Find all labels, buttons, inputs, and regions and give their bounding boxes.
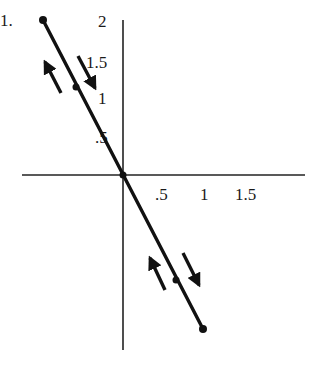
lower-left-arrow-icon xyxy=(150,258,165,290)
bottom-endpoint-dot xyxy=(199,325,207,333)
y-tick-2: 2 xyxy=(98,12,107,31)
x-tick-1-5: 1.5 xyxy=(235,185,256,204)
origin-dot xyxy=(120,172,127,179)
figure-label: 1. xyxy=(0,11,13,30)
upper-left-arrow-icon xyxy=(45,62,61,93)
upper-point-dot xyxy=(73,84,80,91)
top-endpoint-dot xyxy=(39,16,47,24)
y-tick-1-5: 1.5 xyxy=(86,53,107,72)
lower-point-dot xyxy=(173,277,180,284)
x-tick-0-5: .5 xyxy=(155,185,168,204)
y-tick-1: 1 xyxy=(98,89,107,108)
lower-right-arrow-icon xyxy=(183,253,199,285)
x-tick-1: 1 xyxy=(200,185,209,204)
phase-line-diagram: 1. 2 1.5 1 .5 .5 1 1.5 xyxy=(0,0,318,384)
